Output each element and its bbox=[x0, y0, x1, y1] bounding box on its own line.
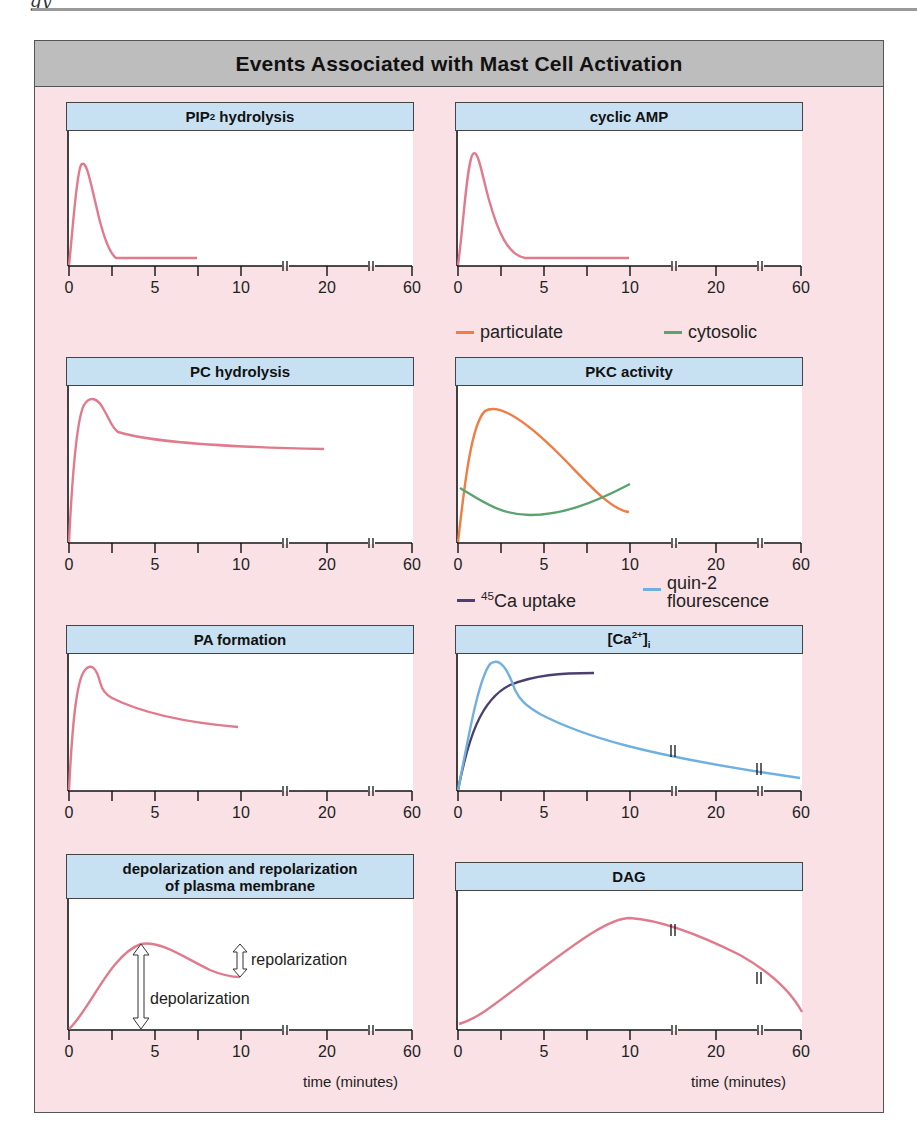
dag-curve-breaks bbox=[671, 924, 761, 984]
x-axis-pc bbox=[65, 538, 421, 573]
line-particulate bbox=[458, 409, 629, 542]
x-axis-camp bbox=[454, 261, 810, 296]
x-axis-pip2 bbox=[65, 261, 421, 296]
x-axis-dag bbox=[454, 1025, 810, 1060]
x-axis-pkc bbox=[454, 538, 810, 573]
x-axis-depolarization bbox=[65, 1025, 421, 1060]
depolarization-arrow-icon bbox=[133, 944, 149, 1029]
line-pip2 bbox=[69, 164, 197, 265]
line-membrane-potential bbox=[69, 943, 240, 1029]
line-quin2 bbox=[458, 662, 800, 790]
line-pa bbox=[69, 667, 238, 790]
x-axis-calcium bbox=[454, 786, 810, 821]
line-pc bbox=[69, 399, 324, 542]
x-axis-pa bbox=[65, 786, 421, 821]
line-dag bbox=[459, 918, 802, 1024]
depolarization-label: depolarization bbox=[150, 990, 250, 1007]
repolarization-label: repolarization bbox=[251, 951, 347, 968]
repolarization-arrow-icon bbox=[233, 944, 247, 977]
charts-overlay: 0 5 10 20 60 repola bbox=[0, 0, 917, 1145]
line-camp bbox=[458, 153, 629, 265]
